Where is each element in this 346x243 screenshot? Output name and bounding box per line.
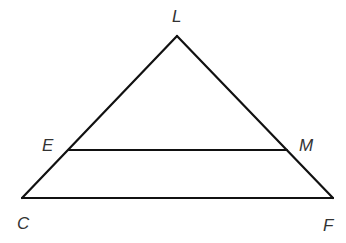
segment-CL — [22, 36, 177, 198]
segment-LF — [177, 36, 333, 198]
label-L: L — [172, 7, 181, 26]
label-E: E — [42, 136, 54, 155]
geometry-diagram: L E M C F — [0, 0, 346, 243]
label-C: C — [17, 214, 30, 233]
triangle-figure: L E M C F — [0, 0, 346, 243]
label-M: M — [299, 136, 314, 155]
label-F: F — [323, 216, 335, 235]
